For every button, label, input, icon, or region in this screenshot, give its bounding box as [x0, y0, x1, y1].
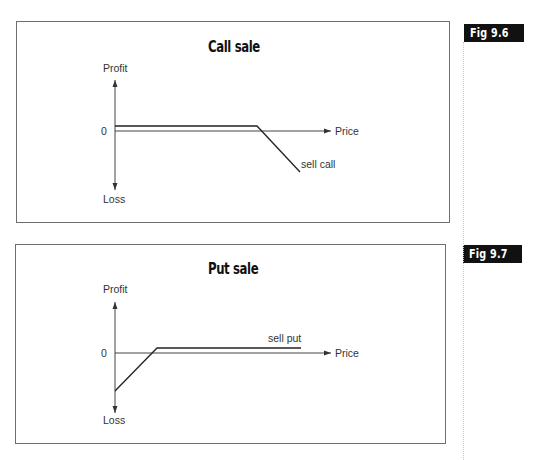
y-axis-bottom-label: Loss — [103, 414, 125, 426]
sell-put-payoff-line — [115, 348, 301, 391]
x-axis-label: Price — [335, 347, 359, 359]
put-sale-chart: Profit Loss 0 Price sell put — [0, 0, 536, 460]
zero-label: 0 — [101, 347, 107, 359]
series-label-sell-put: sell put — [268, 332, 301, 344]
y-axis-top-label: Profit — [103, 283, 128, 295]
margin-dotted-rule — [463, 42, 464, 460]
